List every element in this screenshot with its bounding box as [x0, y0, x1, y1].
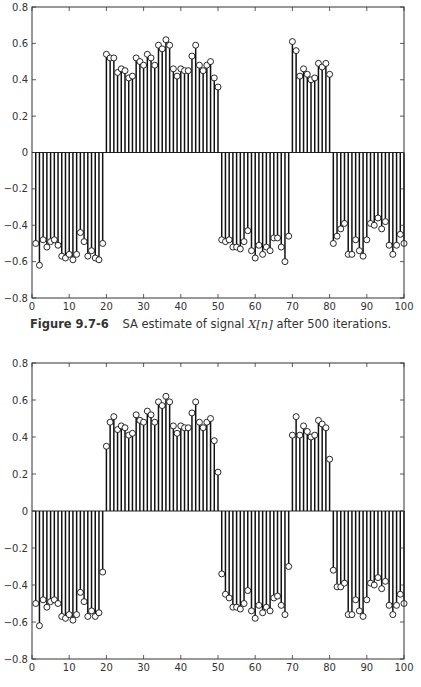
stem-marker	[122, 425, 128, 431]
stem-marker	[330, 567, 336, 573]
stem-marker	[200, 425, 206, 431]
stem-marker	[211, 438, 217, 444]
y-tick-label: 0.2	[12, 469, 28, 480]
stem-marker	[103, 443, 109, 449]
stem-marker	[55, 601, 61, 607]
stem-marker	[141, 419, 147, 425]
stem-marker	[356, 608, 362, 614]
stem-marker	[248, 608, 254, 614]
stem-marker	[382, 578, 388, 584]
stem-marker	[341, 580, 347, 586]
stem-marker	[40, 597, 46, 603]
stem-marker	[282, 612, 288, 618]
stem-marker	[77, 589, 83, 595]
stem-marker	[394, 602, 400, 608]
stem-marker	[226, 595, 232, 601]
stem-marker	[96, 610, 102, 616]
stem-marker	[81, 599, 87, 605]
stem-marker	[107, 419, 113, 425]
stem-marker	[85, 613, 91, 619]
stem-marker	[301, 423, 307, 429]
stem-marker	[323, 425, 329, 431]
x-tick-label: 70	[286, 662, 299, 673]
stem-marker	[36, 623, 42, 629]
stem-marker	[327, 456, 333, 462]
y-tick-label: −0.2	[4, 543, 28, 554]
stem-marker	[353, 597, 359, 603]
stem-marker	[252, 615, 258, 621]
stem-marker	[278, 602, 284, 608]
stem-marker	[256, 602, 262, 608]
stem-marker	[152, 419, 158, 425]
y-tick-label: −0.4	[4, 580, 28, 591]
stem-marker	[349, 612, 355, 618]
stem-marker	[237, 606, 243, 612]
stem-marker	[360, 613, 366, 619]
x-tick-label: 20	[100, 662, 113, 673]
stem-marker	[193, 399, 199, 405]
stem-marker	[286, 564, 292, 570]
stem-marker	[297, 432, 303, 438]
y-tick-label: 0.8	[12, 358, 28, 369]
stem-marker	[364, 597, 370, 603]
stem-marker	[159, 403, 165, 409]
x-tick-label: 80	[323, 662, 336, 673]
stem-marker	[167, 399, 173, 405]
stem-marker	[379, 586, 385, 592]
stem-marker	[293, 414, 299, 420]
stem-marker	[66, 612, 72, 618]
stem-marker	[390, 612, 396, 618]
x-tick-label: 90	[360, 662, 373, 673]
stem-marker	[245, 588, 251, 594]
stem-marker	[148, 412, 154, 418]
stem-marker	[241, 601, 247, 607]
stem-marker	[397, 591, 403, 597]
y-tick-label: 0	[22, 506, 28, 517]
stem-marker	[174, 430, 180, 436]
y-tick-label: 0.6	[12, 395, 28, 406]
stem-marker	[189, 410, 195, 416]
stem-marker	[33, 601, 39, 607]
x-tick-label: 10	[63, 662, 76, 673]
stem-marker	[196, 419, 202, 425]
stem-marker	[267, 608, 273, 614]
stem-marker	[275, 593, 281, 599]
stem-marker	[70, 617, 76, 623]
stem-marker	[185, 425, 191, 431]
stem-marker	[74, 612, 80, 618]
stem-marker	[129, 430, 135, 436]
x-tick-label: 50	[212, 662, 225, 673]
stem-marker	[208, 416, 214, 422]
stem-marker	[170, 423, 176, 429]
stem-marker	[111, 414, 117, 420]
y-tick-label: −0.6	[4, 617, 28, 628]
stem-marker	[375, 575, 381, 581]
x-tick-label: 30	[137, 662, 150, 673]
stem-marker	[219, 571, 225, 577]
stem-marker	[289, 432, 295, 438]
x-tick-label: 40	[174, 662, 187, 673]
stem-marker	[89, 608, 95, 614]
stem-marker	[133, 412, 139, 418]
y-tick-label: 0.4	[12, 432, 28, 443]
plot-area: 0102030405060708090100−0.8−0.6−0.4−0.200…	[4, 358, 414, 674]
stem-marker	[312, 432, 318, 438]
stem-marker	[386, 602, 392, 608]
x-tick-label: 60	[249, 662, 262, 673]
y-tick-label: −0.8	[4, 654, 28, 665]
stem-marker	[304, 428, 310, 434]
stem-marker	[100, 569, 106, 575]
stem-marker	[215, 469, 221, 475]
stem-marker	[371, 582, 377, 588]
stem-marker	[163, 393, 169, 399]
x-tick-label: 100	[394, 662, 413, 673]
stem-plot-final-estimate: 0102030405060708090100−0.8−0.6−0.4−0.200…	[0, 0, 421, 687]
stem-marker	[44, 604, 50, 610]
x-tick-label: 0	[29, 662, 35, 673]
stem-marker	[260, 610, 266, 616]
